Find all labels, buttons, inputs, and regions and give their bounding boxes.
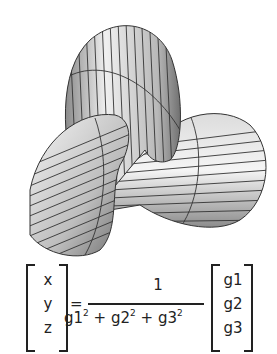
vector-g: g1 g2 g3 xyxy=(218,268,248,340)
trefoil-tube-surface xyxy=(0,0,277,260)
vec-z: z xyxy=(36,316,60,340)
vec-g2: g2 xyxy=(218,292,248,316)
left-bracket-open xyxy=(26,264,35,352)
inversion-formula: x y z = 1 g12 + g22 + g32 g1 g2 g3 xyxy=(0,262,277,354)
vec-x: x xyxy=(36,268,60,292)
fraction-denominator: g12 + g22 + g32 xyxy=(64,308,183,327)
vec-y: y xyxy=(36,292,60,316)
vec-g3: g3 xyxy=(218,316,248,340)
vector-xyz: x y z xyxy=(36,268,60,340)
vec-g1: g1 xyxy=(218,268,248,292)
fraction-bar xyxy=(88,303,204,305)
